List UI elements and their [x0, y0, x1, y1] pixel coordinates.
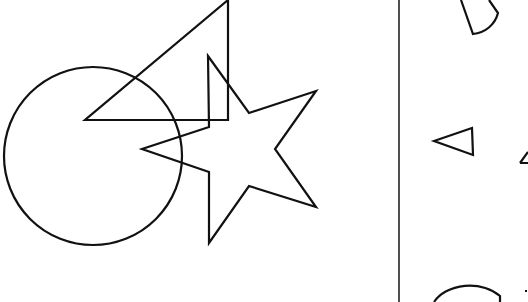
star-shape [142, 56, 316, 243]
sector-shape [461, 0, 498, 34]
left-panel [4, 0, 316, 245]
diagram-canvas [0, 0, 528, 302]
right-panel [434, 0, 528, 302]
circle-shape [4, 67, 182, 245]
right-triangle-shape [85, 0, 228, 120]
arc-shape [434, 286, 500, 302]
partial-triangle-shape [520, 152, 528, 163]
small-triangle-shape [434, 128, 473, 155]
